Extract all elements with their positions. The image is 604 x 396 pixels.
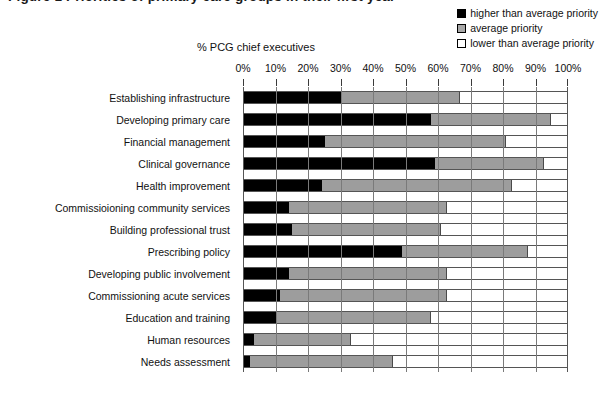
x-tick-mark-60 xyxy=(438,79,439,86)
x-tick-mark-100 xyxy=(567,79,568,86)
bar-segment-average xyxy=(322,180,513,191)
bar-segment-higher xyxy=(244,312,276,323)
gridline-50 xyxy=(406,87,407,372)
bar-segment-lower xyxy=(393,356,567,367)
x-axis-tick-marks xyxy=(243,79,568,86)
category-label: Prescribing policy xyxy=(148,246,230,258)
gridline-40 xyxy=(373,87,374,372)
bar-segment-average xyxy=(341,92,461,103)
x-tick-label-80: 80% xyxy=(492,62,513,74)
gridline-80 xyxy=(503,87,504,372)
bar-segment-higher xyxy=(244,202,289,213)
bar-segment-average xyxy=(325,136,506,147)
x-tick-label-90: 90% xyxy=(525,62,546,74)
gridline-60 xyxy=(438,87,439,372)
x-tick-label-20: 20% xyxy=(297,62,318,74)
bar-segment-average xyxy=(435,158,545,169)
legend-swatch-lower-icon xyxy=(457,39,466,48)
category-label: Human resources xyxy=(147,334,230,346)
category-label: Needs assessment xyxy=(141,356,230,368)
y-axis-category-labels: Establishing infrastructureDeveloping pr… xyxy=(0,87,238,372)
gridline-70 xyxy=(471,87,472,372)
x-axis-tick-labels: 0%10%20%30%40%50%60%70%80%90%100% xyxy=(243,62,568,76)
bar-segment-lower xyxy=(431,312,567,323)
category-label: Financial management xyxy=(124,136,230,148)
legend-label-lower: lower than average priority xyxy=(470,37,594,50)
x-tick-mark-20 xyxy=(308,79,309,86)
x-tick-mark-80 xyxy=(503,79,504,86)
category-label: Commissioning acute services xyxy=(88,290,230,302)
bar-segment-lower xyxy=(447,268,567,279)
category-label: Commissioioning community services xyxy=(55,202,230,214)
x-tick-mark-30 xyxy=(341,79,342,86)
gridline-10 xyxy=(276,87,277,372)
x-tick-mark-70 xyxy=(471,79,472,86)
bar-segment-lower xyxy=(447,202,567,213)
x-axis-title: % PCG chief executives xyxy=(197,41,315,53)
x-tick-label-10: 10% xyxy=(265,62,286,74)
category-label: Building professional trust xyxy=(110,224,230,236)
bar-segment-higher xyxy=(244,246,402,257)
bar-segment-average xyxy=(276,312,431,323)
bar-segment-lower xyxy=(441,224,567,235)
category-label: Establishing infrastructure xyxy=(109,92,230,104)
bar-segment-average xyxy=(289,268,447,279)
bar-segment-higher xyxy=(244,136,325,147)
x-tick-label-40: 40% xyxy=(362,62,383,74)
bar-segment-lower xyxy=(528,246,567,257)
bar-segment-higher xyxy=(244,268,289,279)
x-tick-label-30: 30% xyxy=(330,62,351,74)
bar-segment-average xyxy=(292,224,441,235)
chart-plot-area xyxy=(243,87,568,372)
bar-segment-average xyxy=(431,114,551,125)
x-tick-mark-0 xyxy=(243,79,244,86)
bar-segment-lower xyxy=(551,114,567,125)
bar-segment-higher xyxy=(244,290,280,301)
legend-swatch-higher-icon xyxy=(457,9,466,18)
category-label: Health improvement xyxy=(136,180,230,192)
category-label: Education and training xyxy=(126,312,231,324)
x-tick-label-50: 50% xyxy=(395,62,416,74)
legend-label-higher: higher than average priority xyxy=(470,7,598,20)
legend-swatch-average-icon xyxy=(457,24,466,33)
gridline-90 xyxy=(536,87,537,372)
bar-segment-average xyxy=(250,356,392,367)
x-tick-label-60: 60% xyxy=(427,62,448,74)
gridline-30 xyxy=(341,87,342,372)
gridline-20 xyxy=(308,87,309,372)
x-tick-label-0: 0% xyxy=(235,62,250,74)
x-tick-label-100: 100% xyxy=(555,62,582,74)
bar-segment-average xyxy=(280,290,448,301)
bar-segment-higher xyxy=(244,114,431,125)
bar-segment-higher xyxy=(244,334,254,345)
bar-segment-lower xyxy=(512,180,567,191)
category-label: Developing primary care xyxy=(116,114,230,126)
legend-label-average: average priority xyxy=(470,22,542,35)
x-tick-mark-10 xyxy=(276,79,277,86)
category-label: Developing public involvement xyxy=(88,268,230,280)
bar-segment-average xyxy=(402,246,528,257)
x-tick-mark-50 xyxy=(406,79,407,86)
bar-segment-lower xyxy=(447,290,567,301)
bar-segment-higher xyxy=(244,92,341,103)
figure-caption: Figure 1 Priorities of primary care grou… xyxy=(8,0,396,4)
category-label: Clinical governance xyxy=(138,158,230,170)
legend-item-average: average priority xyxy=(457,22,598,35)
chart-legend: higher than average priority average pri… xyxy=(457,7,598,50)
bar-segment-average xyxy=(289,202,447,213)
legend-item-higher: higher than average priority xyxy=(457,7,598,20)
x-tick-mark-40 xyxy=(373,79,374,86)
x-tick-label-70: 70% xyxy=(460,62,481,74)
x-tick-mark-90 xyxy=(536,79,537,86)
legend-item-lower: lower than average priority xyxy=(457,37,598,50)
bar-segment-higher xyxy=(244,224,292,235)
bar-segment-lower xyxy=(544,158,567,169)
bar-segment-lower xyxy=(460,92,567,103)
bar-segment-higher xyxy=(244,180,322,191)
bar-segment-average xyxy=(254,334,351,345)
